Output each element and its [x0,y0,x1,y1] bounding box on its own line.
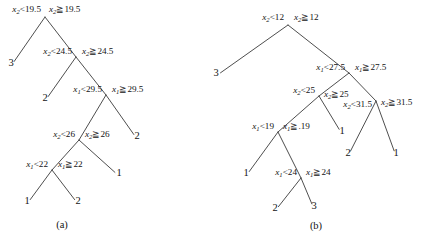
tree-edge [48,57,76,97]
split-label-left: x2<31.5 [342,99,372,110]
leaf-class-label: 1 [393,147,398,158]
leaf-class-label: 2 [42,92,47,103]
leaf-class-label: 3 [213,67,218,78]
split-label-left: x1<27.5 [315,62,345,73]
decision-tree-figure: x2<19.5x2≧19.5x2<24.5x2≧24.5x1<29.5x1≧29… [0,0,421,241]
tree-edge [278,178,301,207]
tree-edge [30,170,52,200]
tree-edge [349,73,376,101]
subfigure-caption: (b) [310,220,323,232]
leaf-class-label: 3 [311,200,316,211]
split-label-right: x1≧29.5 [111,84,144,95]
split-label-right: x1≧22 [57,159,83,170]
tree-edge [220,25,288,73]
tree-edge [14,17,45,61]
split-label-left: x2<19.5 [11,4,41,15]
split-label-left: x1<29.5 [72,84,102,95]
split-label-left: x1<22 [25,159,48,170]
split-label-left: x2<25 [292,85,315,96]
leaf-class-label: 2 [134,130,139,141]
leaf-class-label: 1 [24,195,29,206]
tree-edge [52,170,75,200]
leaf-class-label: 3 [8,57,13,68]
tree-edge [376,101,394,151]
leaf-class-label: 2 [75,195,80,206]
leaf-class-label: 2 [272,202,277,213]
leaf-class-label: 2 [345,147,350,158]
split-label-right: x2≧19.5 [48,4,81,15]
figure-captions-layer: (a)(b) [56,219,322,232]
split-label-left: x1<19 [251,121,274,132]
tree-split-labels-layer: x2<19.5x2≧19.5x2<24.5x2≧24.5x1<29.5x1≧29… [11,4,413,178]
split-label-right: x2≧24.5 [81,46,114,57]
split-label-right: x2≧31.5 [380,97,413,108]
tree-edge [319,96,339,129]
subfigure-caption: (a) [56,219,68,231]
split-label-left: x1<24 [274,167,297,178]
leaf-class-label: 1 [339,125,344,136]
split-label-left: x2<24.5 [42,46,72,57]
split-label-right: x1≧.19 [282,121,310,132]
split-label-right: x2≧12 [293,12,319,23]
split-label-left: x2<26 [52,129,75,140]
split-label-right: x1≧27.5 [354,62,387,73]
tree-edge [249,132,278,172]
split-label-right: x2≧26 [84,129,110,140]
tree-edge [301,178,312,204]
leaf-class-label: 1 [116,167,121,178]
tree-edge [106,95,134,135]
split-label-left: x2<12 [261,12,284,23]
tree-edge [79,140,115,172]
split-label-right: x1≧24 [305,167,331,178]
leaf-class-label: 1 [243,167,248,178]
